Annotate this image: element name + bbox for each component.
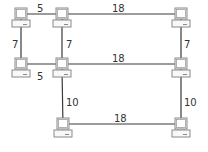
edge-weight-label: 18 bbox=[112, 53, 125, 64]
computer-icon bbox=[53, 58, 71, 77]
computer-icon bbox=[12, 58, 30, 77]
computer-icon bbox=[53, 8, 71, 27]
edge-weight-label: 5 bbox=[37, 71, 43, 82]
edge-weight-label: 5 bbox=[37, 3, 43, 14]
edge-weight-label: 10 bbox=[184, 97, 197, 108]
edge-weight-label: 18 bbox=[112, 3, 125, 14]
computer-icon bbox=[12, 8, 30, 27]
edge-weight-label: 10 bbox=[66, 97, 79, 108]
computer-icon bbox=[54, 118, 72, 137]
edge-weight-label: 7 bbox=[66, 39, 72, 50]
edge-weight-label: 7 bbox=[184, 39, 190, 50]
network-diagram: 518777518101018 bbox=[0, 0, 208, 152]
edge-weight-label: 18 bbox=[114, 113, 127, 124]
edge-weight-label: 7 bbox=[12, 39, 18, 50]
computer-icon bbox=[172, 58, 190, 77]
computer-icon bbox=[172, 8, 190, 27]
computer-icon bbox=[172, 118, 190, 137]
